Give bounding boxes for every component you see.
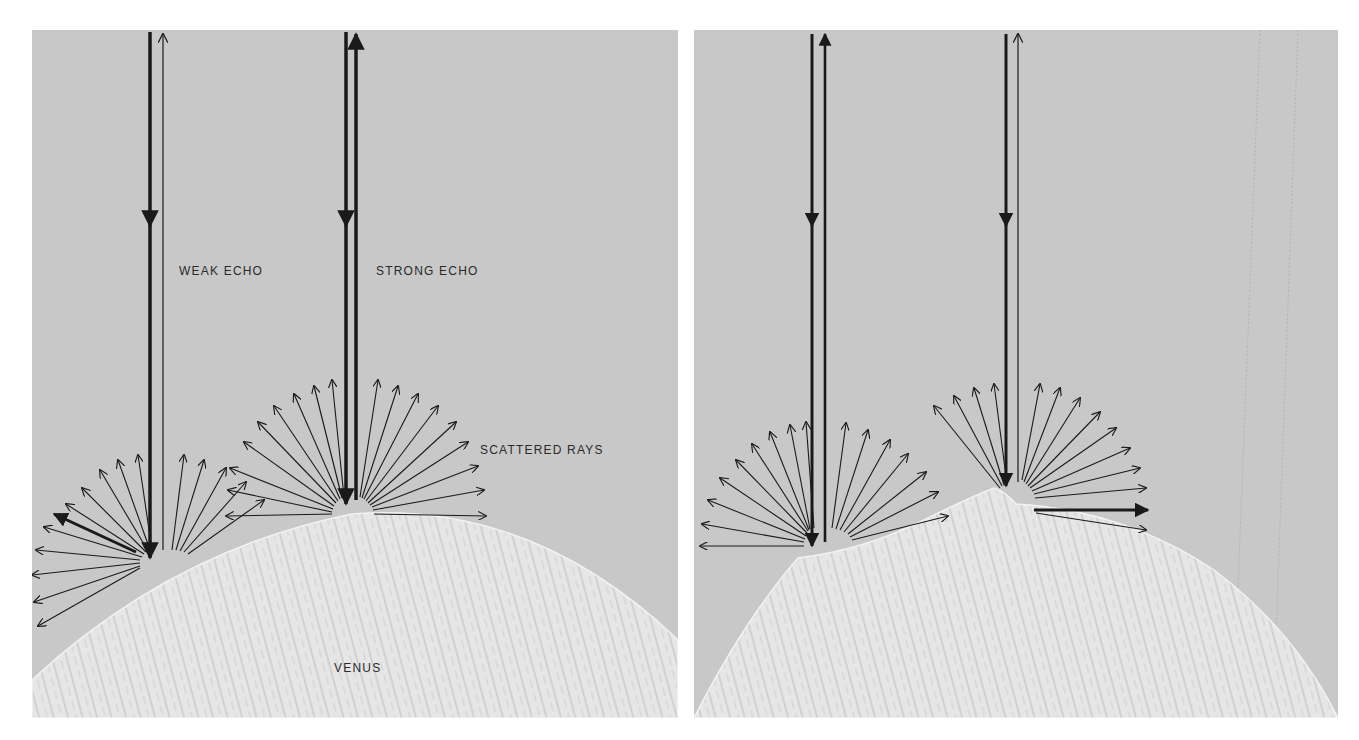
venus-surface-mountain xyxy=(694,488,1338,718)
radar-scatter-diagram-left xyxy=(32,30,678,718)
diagram-panel-left: WEAK ECHO STRONG ECHO SCATTERED RAYS VEN… xyxy=(32,30,678,718)
label-strong-echo: STRONG ECHO xyxy=(376,264,479,278)
label-scattered-rays: SCATTERED RAYS xyxy=(480,443,604,457)
diagram-panel-right xyxy=(694,30,1338,718)
radar-scatter-diagram-right xyxy=(694,30,1338,718)
venus-surface xyxy=(32,513,678,718)
label-weak-echo: WEAK ECHO xyxy=(179,264,263,278)
label-venus: VENUS xyxy=(334,661,381,675)
